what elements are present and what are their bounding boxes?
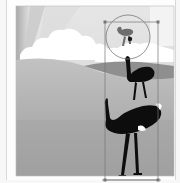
- foreground: [16, 120, 174, 176]
- sky-highlight: [150, 6, 174, 46]
- artwork-canvas[interactable]: [0, 0, 180, 183]
- handle-bottom-right: [157, 179, 160, 182]
- handle-bottom-left: [104, 179, 107, 182]
- handle-top-right: [157, 21, 160, 24]
- illustration: [16, 6, 174, 177]
- handle-top-left: [104, 21, 107, 24]
